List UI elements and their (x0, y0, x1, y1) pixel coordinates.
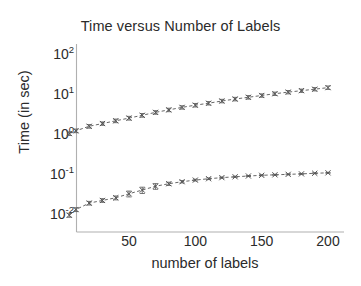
series-lower-curve (67, 170, 331, 218)
axis-frame (77, 44, 345, 232)
data-series-layer (67, 85, 331, 218)
plot-area (0, 0, 361, 286)
series-line (69, 88, 328, 134)
series-line (69, 173, 328, 215)
chart-figure: Time versus Number of Labels Time (in se… (0, 0, 361, 286)
series-upper-curve (67, 85, 331, 136)
